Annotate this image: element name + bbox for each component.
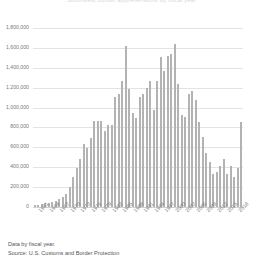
y-axis-tick-label: 0 [26, 204, 29, 209]
y-axis-tick-label: 200,000 [10, 185, 29, 190]
y-axis-tick-label: 1,400,000 [6, 65, 29, 70]
footnote-fiscal-year: Data by fiscal year. [8, 240, 258, 249]
y-axis-tick-label: 1,600,000 [6, 45, 29, 50]
y-axis-tick-label: 800,000 [10, 125, 29, 130]
chart-footnotes: Data by fiscal year. Source: U.S. Custom… [8, 240, 258, 258]
chart-title: Southwest border apprehensions by fiscal… [0, 0, 263, 4]
bar[interactable] [240, 122, 242, 207]
plot-area: 0200,000400,000600,000800,0001,000,0001,… [33, 28, 243, 207]
chart-figure: Southwest border apprehensions by fiscal… [0, 0, 263, 262]
x-axis-labels: 1961196419671970197319761979198219851988… [33, 209, 243, 239]
y-axis-tick-label: 400,000 [10, 165, 29, 170]
y-axis-tick-label: 600,000 [10, 145, 29, 150]
y-axis-tick-label: 1,200,000 [6, 85, 29, 90]
bar-series [33, 28, 243, 207]
y-axis-tick-label: 1,000,000 [6, 105, 29, 110]
footnote-source: Source: U.S. Customs and Border Protecti… [8, 249, 258, 258]
y-axis-tick-label: 1,800,000 [6, 25, 29, 30]
bar-slot [240, 28, 244, 207]
